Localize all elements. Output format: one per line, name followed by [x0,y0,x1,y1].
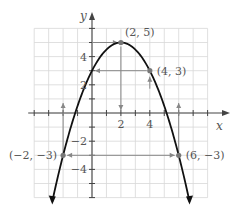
curve-right-arrow-icon [186,196,193,205]
x-tick-label: 4 [146,118,153,131]
curve-left-arrow-icon [49,196,56,205]
y-tick-label: 2 [80,79,87,92]
point-label: (2, 5) [125,26,155,39]
data-point [176,153,181,158]
y-axis-arrow-icon [89,12,95,20]
arrow-up-right-head-icon [176,103,181,108]
y-tick-label: −4 [71,163,87,176]
arrow-up-left-head-icon [61,103,66,108]
x-axis-arrow-icon [222,110,230,116]
point-label: (−2, −3) [9,149,57,162]
x-axis-label: x [216,119,223,133]
y-tick-label: −2 [71,135,87,148]
arrow-to-neg2-neg3-head-icon [67,153,72,158]
data-point [118,40,123,45]
x-tick-label: 2 [117,118,124,131]
point-label: (4, 3) [157,65,187,78]
arrow-to-y-intercept-head-icon [95,68,100,73]
y-tick-label: 4 [80,51,87,64]
labeled-points: (2, 5)(4, 3)(−2, −3)(6, −3) [9,26,224,163]
parabola-graph: (2, 5)(4, 3)(−2, −3)(6, −3) 2442−2−4 x y [0,0,234,209]
arrow-down-axis-of-symmetry-head-icon [118,105,123,110]
arrow-to-6-neg3-head-icon [170,153,175,158]
point-label: (6, −3) [186,149,225,162]
y-axis-label: y [79,9,87,23]
data-point [61,153,66,158]
arrow-up-to-4-3-head-icon [147,77,152,82]
data-point [147,68,152,73]
